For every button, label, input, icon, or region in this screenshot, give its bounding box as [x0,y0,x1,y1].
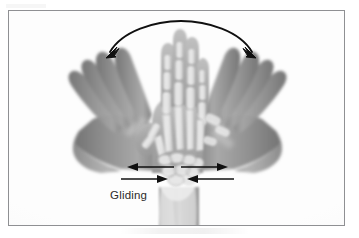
scan-artifact-bottom [120,228,250,234]
gliding-label: Gliding [110,189,147,202]
scan-artifact-top [6,4,46,8]
image-frame: Gliding [8,10,345,226]
hand-right-deviated [196,48,286,173]
radiograph-artwork [9,11,345,226]
forearm [159,187,199,226]
figure-root: Gliding [0,0,359,238]
